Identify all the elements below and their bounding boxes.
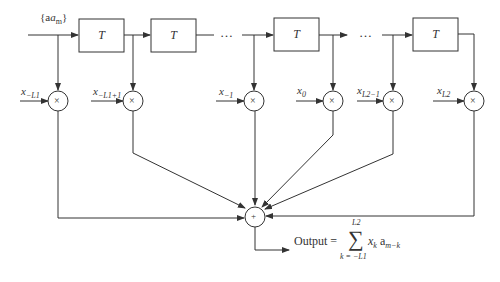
tap-label-0: x−L1: [21, 86, 40, 100]
mult-symbol-4: ×: [329, 96, 335, 106]
tap-label-2: x−1: [219, 86, 233, 100]
tap-label-1: x−L1+1: [93, 86, 121, 100]
ellipsis-1: …: [220, 26, 234, 39]
mult-symbol-1: ×: [54, 96, 60, 106]
delay-label-3: T: [274, 28, 319, 40]
tap-label-3: x0: [297, 85, 306, 99]
summer-symbol: +: [251, 212, 256, 221]
sigma-symbol: ∑: [348, 228, 364, 250]
sum-lower-limit: k = −L1: [340, 252, 367, 261]
output-prefix: Output =: [294, 234, 337, 249]
mult-symbol-6: ×: [470, 96, 476, 106]
tap-label-4: xL2−1: [357, 85, 380, 99]
delay-label-2: T: [151, 29, 196, 41]
mult-symbol-2: ×: [129, 96, 135, 106]
ellipsis-2: …: [359, 26, 373, 39]
delay-label-1: T: [79, 29, 124, 41]
block-diagram-canvas: [0, 0, 500, 282]
delay-label-4: T: [413, 28, 458, 40]
sum-term: xk am−k: [368, 234, 400, 250]
input-label: {aam}: [40, 12, 67, 26]
tap-label-5: xL2: [437, 85, 450, 99]
mult-symbol-3: ×: [250, 96, 256, 106]
mult-symbol-5: ×: [389, 96, 395, 106]
